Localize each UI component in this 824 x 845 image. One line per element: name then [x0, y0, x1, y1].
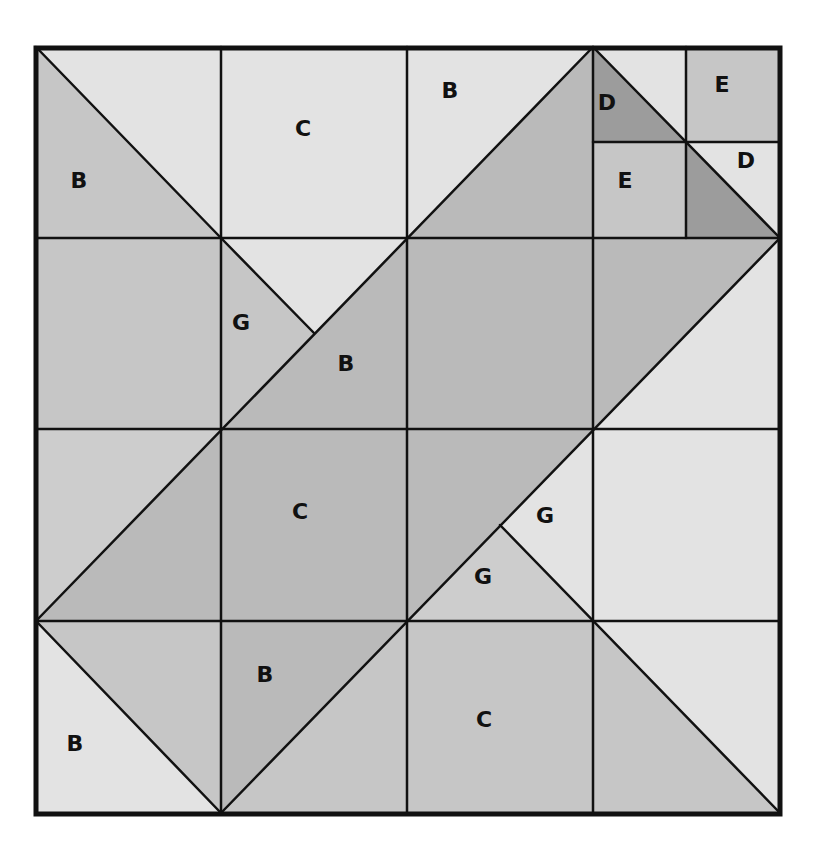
quilt-block-diagram: BCBDEEDGBCGGBBC: [0, 0, 824, 845]
quilt-piece-r2c1-C: [221, 429, 407, 621]
piece-label: B: [71, 168, 88, 193]
quilt-piece-r0c1-C: [221, 47, 407, 238]
piece-label: B: [338, 351, 355, 376]
piece-label: C: [295, 116, 311, 141]
piece-label: B: [442, 78, 459, 103]
piece-label: G: [536, 503, 554, 528]
piece-label: G: [232, 310, 250, 335]
piece-label: G: [474, 564, 492, 589]
quilt-piece-r0c3-tr-E: [686, 47, 780, 142]
piece-label: B: [257, 662, 274, 687]
quilt-piece-r2c3: [593, 429, 780, 621]
piece-label: C: [292, 499, 308, 524]
piece-label: D: [598, 90, 616, 115]
quilt-piece-r1c2: [407, 238, 593, 429]
piece-label: E: [617, 168, 632, 193]
piece-label: B: [67, 731, 84, 756]
quilt-piece-r1c0: [36, 238, 221, 429]
quilt-piece-r0c3-bl-E: [593, 142, 686, 238]
piece-label: D: [737, 148, 755, 173]
piece-label: E: [714, 72, 729, 97]
piece-label: C: [476, 707, 492, 732]
quilt-piece-r3c2-C: [407, 621, 593, 813]
